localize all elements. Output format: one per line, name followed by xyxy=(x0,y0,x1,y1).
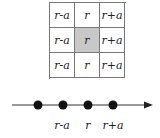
arrow-head-icon xyxy=(144,102,153,109)
grid-cell: r-a xyxy=(50,28,75,53)
label-r: r xyxy=(85,119,90,132)
center-cell: r xyxy=(75,28,100,53)
grid-cell: r+a xyxy=(100,3,125,28)
point-dot xyxy=(84,101,93,110)
grid-cell: r+a xyxy=(100,53,125,78)
label-r-minus-a: r-a xyxy=(54,119,70,132)
grid-cell: r-a xyxy=(50,3,75,28)
grid-cell: r xyxy=(75,53,100,78)
neighborhood-grid: r-a r r+a r-a r r+a r-a r r+a xyxy=(49,2,126,79)
point-dot xyxy=(59,101,68,110)
grid-cell: r+a xyxy=(100,28,125,53)
label-r-plus-a: r+a xyxy=(102,119,123,132)
grid-cell: r-a xyxy=(50,53,75,78)
point-dot xyxy=(34,101,43,110)
grid-cell: r xyxy=(75,3,100,28)
point-dot xyxy=(109,101,118,110)
number-line xyxy=(0,95,160,115)
